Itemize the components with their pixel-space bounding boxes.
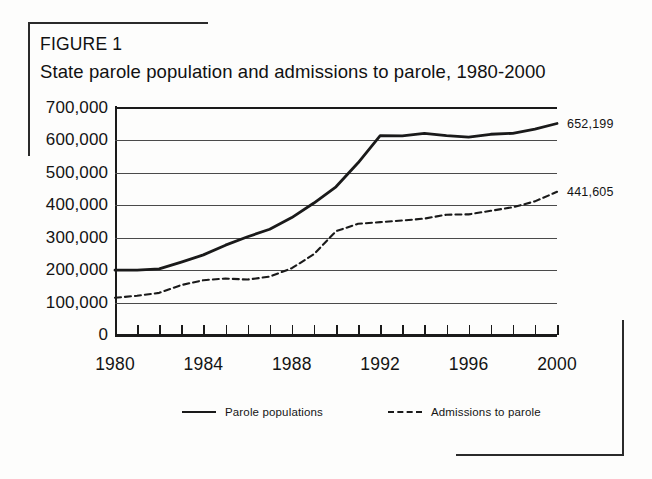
y-tick-label-0: 0: [16, 325, 108, 345]
y-tick-label-100000: 100,000: [16, 293, 108, 313]
x-tick-1996: [469, 325, 471, 335]
end-label-parole-populations: 652,199: [567, 117, 614, 131]
x-tick-1987: [270, 325, 272, 335]
x-tick-1981: [137, 325, 139, 335]
x-tick-1991: [358, 325, 360, 335]
x-axis-ticks: [115, 325, 557, 335]
x-tick-1992: [380, 325, 382, 335]
x-tick-1983: [181, 325, 183, 335]
y-tick-label-600000: 600,000: [16, 130, 108, 150]
x-tick-1998: [513, 325, 515, 335]
x-tick-1982: [159, 325, 161, 335]
x-tick-2000: [557, 325, 559, 335]
x-tick-1997: [491, 325, 493, 335]
chart-legend: Parole populations Admissions to parole: [0, 406, 652, 430]
end-label-admissions-to-parole: 441,605: [567, 185, 614, 199]
figure-page: FIGURE 1 State parole population and adm…: [0, 0, 652, 479]
y-axis-labels: 700,000600,000500,000400,000300,000200,0…: [16, 108, 108, 335]
plot-area: [115, 108, 557, 335]
y-tick-label-200000: 200,000: [16, 260, 108, 280]
x-tick-1989: [314, 325, 316, 335]
x-tick-label-1988: 1988: [272, 354, 312, 375]
x-tick-1999: [535, 325, 537, 335]
x-tick-1984: [203, 325, 205, 335]
y-tick-label-400000: 400,000: [16, 195, 108, 215]
x-tick-1985: [226, 325, 228, 335]
x-tick-1990: [336, 325, 338, 335]
x-tick-label-2000: 2000: [537, 354, 577, 375]
x-tick-label-1992: 1992: [360, 354, 400, 375]
x-axis-labels: 198019841988199219962000: [0, 354, 652, 380]
legend-label-admissions-to-parole: Admissions to parole: [431, 406, 541, 418]
x-axis-line: [115, 335, 557, 337]
series-lines: [115, 108, 557, 335]
y-tick-label-500000: 500,000: [16, 163, 108, 183]
legend-item-parole-populations: Parole populations: [182, 406, 323, 418]
legend-item-admissions-to-parole: Admissions to parole: [388, 406, 541, 418]
x-tick-label-1980: 1980: [95, 354, 135, 375]
x-tick-1986: [248, 325, 250, 335]
y-tick-label-300000: 300,000: [16, 228, 108, 248]
legend-label-parole-populations: Parole populations: [225, 406, 323, 418]
x-tick-label-1984: 1984: [184, 354, 224, 375]
series-line-parole-populations: [115, 124, 557, 271]
x-tick-label-1996: 1996: [449, 354, 489, 375]
x-tick-1980: [115, 325, 117, 335]
series-line-admissions-to-parole: [115, 192, 557, 298]
x-tick-1994: [424, 325, 426, 335]
x-tick-1988: [292, 325, 294, 335]
x-tick-1993: [402, 325, 404, 335]
y-tick-label-700000: 700,000: [16, 98, 108, 118]
solid-line-icon: [182, 411, 216, 413]
dashed-line-icon: [388, 411, 422, 413]
x-tick-1995: [447, 325, 449, 335]
